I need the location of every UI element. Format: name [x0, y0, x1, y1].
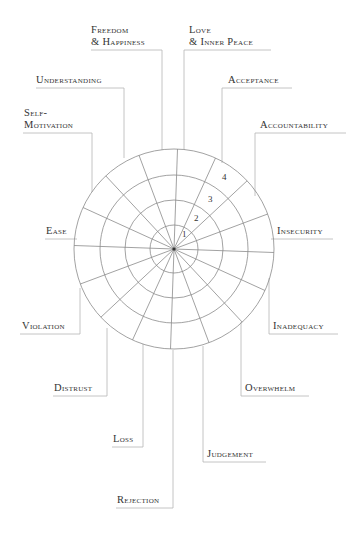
label-overwhelm: Overwhelm [245, 382, 295, 394]
label-line: Motivation [24, 119, 73, 131]
label-rejection: Rejection [117, 494, 159, 506]
label-judgement: Judgement [207, 448, 253, 460]
label-understanding: Understanding [36, 74, 102, 86]
label-line: Inadequacy [273, 320, 324, 332]
spoke [174, 214, 268, 249]
connector-loss [112, 344, 143, 447]
spoke [174, 249, 209, 343]
spoke [174, 149, 178, 249]
label-freedom-happiness: Freedom & Happiness [91, 24, 145, 48]
connector-judgement [203, 346, 266, 462]
spoke [139, 155, 174, 249]
ring-label-2: 2 [194, 214, 199, 223]
spoke [171, 249, 175, 349]
spoke [74, 246, 174, 250]
label-line: Ease [46, 225, 67, 237]
label-loss: Loss [113, 433, 133, 445]
connector-accountability [255, 133, 346, 196]
spoke [101, 249, 174, 317]
label-line: Rejection [117, 494, 159, 506]
label-line: Overwhelm [245, 382, 295, 394]
spoke [174, 249, 274, 253]
label-insecurity: Insecurity [277, 225, 323, 237]
connector-rejection [116, 350, 173, 508]
spoke [174, 249, 242, 322]
label-line: Judgement [207, 448, 253, 460]
spoke [133, 249, 175, 340]
label-distrust: Distrust [54, 382, 92, 394]
label-line: Love [189, 24, 253, 36]
spoke [83, 208, 174, 250]
connector-love-inner-peace [184, 50, 271, 150]
label-self-motivation: Self- Motivation [24, 107, 73, 131]
connector-self-motivation [23, 133, 92, 192]
spoke [80, 249, 174, 284]
label-violation: Violation [22, 320, 65, 332]
spoke [174, 249, 265, 291]
label-acceptance: Acceptance [228, 74, 279, 86]
label-inadequacy: Inadequacy [273, 320, 324, 332]
label-line: Loss [113, 433, 133, 445]
connector-freedom-happiness [91, 50, 162, 150]
label-line: & Inner Peace [189, 36, 253, 48]
ring-label-1: 1 [182, 230, 187, 239]
label-line: Understanding [36, 74, 102, 86]
spoke [106, 176, 174, 249]
label-line: Distrust [54, 382, 92, 394]
label-line: Self- [24, 107, 73, 119]
label-line: Acceptance [228, 74, 279, 86]
label-line: Violation [22, 320, 65, 332]
label-love-inner-peace: Love & Inner Peace [189, 24, 253, 48]
ring-label-3: 3 [208, 195, 213, 204]
label-line: Accountability [260, 119, 328, 131]
label-accountability: Accountability [260, 119, 328, 131]
label-line: Insecurity [277, 225, 323, 237]
label-line: Freedom [91, 24, 145, 36]
center-dot [172, 247, 175, 250]
label-line: & Happiness [91, 36, 145, 48]
ring-label-4: 4 [222, 173, 227, 182]
label-ease: Ease [46, 225, 67, 237]
